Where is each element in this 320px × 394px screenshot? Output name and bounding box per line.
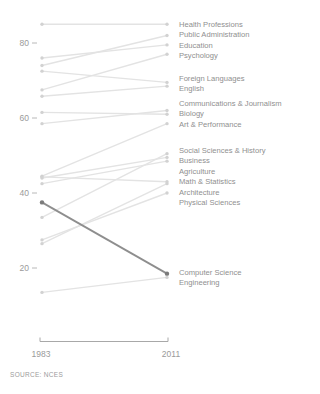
y-tick-label-80: 80 [7, 38, 29, 48]
x-axis-bracket [40, 338, 168, 342]
endpoint-dot-2011 [165, 53, 168, 56]
series-label-foreign-languages: Foreign Languages [179, 74, 319, 84]
slope-line-math-statistics [42, 177, 167, 182]
series-label-social-sciences-history: Social Sciences & History [179, 146, 319, 156]
y-tick-label-20: 20 [7, 263, 29, 273]
endpoint-dot-2011 [165, 122, 168, 125]
endpoint-dot-2011 [165, 271, 169, 275]
endpoint-dot-1983 [40, 95, 43, 98]
endpoint-dot-1983 [40, 111, 43, 114]
slope-line-education [42, 45, 167, 58]
slope-line-agriculture [42, 154, 167, 218]
endpoint-dot-2011 [165, 113, 168, 116]
endpoint-dot-2011 [165, 81, 168, 84]
series-label-business: Business [179, 156, 319, 166]
series-label-health-professions: Health Professions [179, 20, 319, 30]
x-axis-label-1983: 1983 [24, 349, 58, 359]
endpoint-dot-1983 [40, 182, 43, 185]
x-axis-label-2011: 2011 [154, 349, 188, 359]
slopegraph-women-by-major: 80604020 Health ProfessionsPublic Admini… [0, 0, 320, 394]
endpoint-dot-1983 [40, 291, 43, 294]
series-label-public-administration: Public Administration [179, 30, 319, 40]
series-label-art-performance: Art & Performance [179, 120, 319, 130]
endpoint-dot-1983 [40, 69, 43, 72]
series-label-education: Education [179, 41, 319, 51]
series-label-agriculture: Agriculture [179, 167, 319, 177]
series-label-computer-science: Computer Science [179, 268, 319, 278]
endpoint-dot-1983 [40, 175, 43, 178]
endpoint-dot-2011 [165, 34, 168, 37]
y-tick-label-60: 60 [7, 113, 29, 123]
slope-line-physical-sciences [42, 193, 167, 240]
endpoint-dot-2011 [165, 156, 168, 159]
endpoint-dot-1983 [40, 242, 43, 245]
endpoint-dot-2011 [165, 23, 168, 26]
slope-line-engineering [42, 277, 167, 292]
endpoint-dot-2011 [165, 152, 168, 155]
series-label-english: English [179, 84, 319, 94]
series-label-biology: Biology [179, 109, 319, 119]
slope-line-foreign-languages [42, 71, 167, 82]
slope-line-english [42, 86, 167, 96]
endpoint-dot-2011 [165, 182, 168, 185]
slope-line-business [42, 161, 167, 184]
endpoint-dot-1983 [40, 88, 43, 91]
series-label-architecture: Architecture [179, 188, 319, 198]
y-tick-label-40: 40 [7, 188, 29, 198]
series-label-physical-sciences: Physical Sciences [179, 198, 319, 208]
source-note: SOURCE: NCES [10, 371, 63, 378]
endpoint-dot-1983 [40, 122, 43, 125]
endpoint-dot-2011 [165, 191, 168, 194]
endpoint-dot-1983 [40, 238, 43, 241]
series-label-math-statistics: Math & Statistics [179, 177, 319, 187]
slope-line-public-administration [42, 36, 167, 66]
series-label-communications-journalism: Communications & Journalism [179, 99, 319, 109]
endpoint-dot-2011 [165, 159, 168, 162]
endpoint-dot-1983 [40, 64, 43, 67]
endpoint-dot-1983 [40, 216, 43, 219]
endpoint-dot-2011 [165, 109, 168, 112]
endpoint-dot-1983 [40, 56, 43, 59]
series-label-engineering: Engineering [179, 278, 319, 288]
endpoint-dot-1983 [40, 200, 44, 204]
endpoint-dot-2011 [165, 43, 168, 46]
endpoint-dot-1983 [40, 23, 43, 26]
series-label-psychology: Psychology [179, 51, 319, 61]
endpoint-dot-2011 [165, 84, 168, 87]
endpoint-dot-2011 [165, 276, 168, 279]
slope-line-psychology [42, 54, 167, 90]
